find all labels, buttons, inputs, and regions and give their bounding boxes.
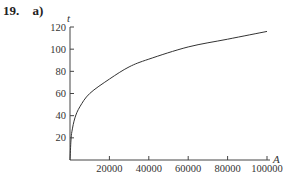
- axes: [70, 27, 270, 160]
- y-tick-label: 20: [56, 132, 67, 143]
- x-axis-label: A: [272, 153, 280, 165]
- line-chart: 2040608010012020000400006000080000100000…: [0, 0, 284, 174]
- tick-labels: 2040608010012020000400006000080000100000: [50, 22, 283, 175]
- x-tick-label: 20000: [96, 163, 122, 174]
- x-tick-label: 60000: [175, 163, 201, 174]
- y-tick-label: 80: [56, 66, 67, 77]
- x-tick-label: 40000: [136, 163, 162, 174]
- y-tick-label: 100: [50, 44, 66, 55]
- y-axis-label: t: [67, 12, 71, 24]
- x-tick-label: 80000: [214, 163, 240, 174]
- y-tick-label: 120: [50, 22, 66, 33]
- data-curve: [70, 31, 267, 160]
- tick-marks: [70, 27, 267, 160]
- y-tick-label: 60: [56, 88, 67, 99]
- y-tick-label: 40: [56, 110, 67, 121]
